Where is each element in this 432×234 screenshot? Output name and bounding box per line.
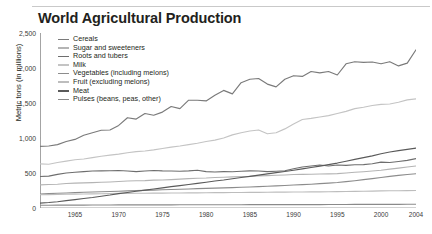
series-line xyxy=(40,191,416,195)
chart-title: World Agricultural Production xyxy=(38,10,241,26)
legend-label: Pulses (beans, peas, other) xyxy=(73,95,161,104)
legend-color-swatch xyxy=(58,64,69,66)
x-tick-label: 1995 xyxy=(330,211,344,218)
series-line xyxy=(40,166,416,185)
series-line xyxy=(40,159,416,177)
legend-color-swatch xyxy=(58,56,69,58)
y-tick-label: 0 xyxy=(32,205,36,212)
y-tick-label: 1,000 xyxy=(19,135,36,142)
y-tick-label: 1,500 xyxy=(19,100,36,107)
x-tick-label: 1975 xyxy=(155,211,169,218)
x-tick-label: 1990 xyxy=(286,211,300,218)
x-tick-label: 1965 xyxy=(68,211,82,218)
legend-color-swatch xyxy=(58,47,69,49)
legend-item[interactable]: Pulses (beans, peas, other) xyxy=(58,95,169,104)
y-tick-label: 500 xyxy=(25,170,36,177)
x-tick-label: 2000 xyxy=(374,211,388,218)
y-tick-label: 2,500 xyxy=(19,30,36,37)
x-tick-label: 1985 xyxy=(243,211,257,218)
chart-legend: CerealsSugar and sweetenersRoots and tub… xyxy=(58,35,169,104)
y-tick-label: 2,000 xyxy=(19,65,36,72)
legend-color-swatch xyxy=(58,73,69,75)
top-divider-rule xyxy=(32,6,430,7)
legend-color-swatch xyxy=(58,90,69,92)
x-tick-label: 2004 xyxy=(409,211,423,218)
legend-color-swatch xyxy=(58,39,69,41)
plot-area: 05001,0001,5002,0002,500 196519701975198… xyxy=(40,33,416,208)
legend-color-swatch xyxy=(58,81,69,83)
x-tick-label: 1970 xyxy=(111,211,125,218)
x-tick-label: 1980 xyxy=(199,211,213,218)
series-line xyxy=(40,204,416,205)
legend-color-swatch xyxy=(58,99,69,101)
